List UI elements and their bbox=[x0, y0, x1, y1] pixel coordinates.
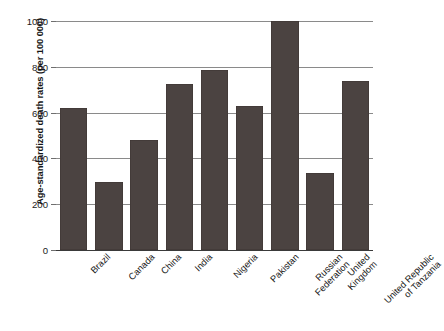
plot-area: 10008006004002000 bbox=[56, 21, 373, 250]
x-axis-label: Nigeria bbox=[231, 252, 259, 280]
bar-slot bbox=[267, 21, 302, 250]
x-axis-label-line: China bbox=[159, 252, 183, 276]
bar[interactable] bbox=[60, 108, 87, 250]
x-axis-labels: BrazilCanadaChinaIndiaNigeriaPakistanRus… bbox=[56, 252, 373, 331]
bar-slot bbox=[303, 21, 338, 250]
x-axis-label: UnitedKingdom bbox=[339, 252, 380, 293]
y-tick-label-800: 800 bbox=[32, 61, 48, 72]
bar-slot bbox=[162, 21, 197, 250]
x-axis-label: Canada bbox=[126, 252, 156, 282]
bar-series bbox=[56, 21, 373, 250]
x-axis-baseline bbox=[56, 250, 373, 251]
x-axis-label: China bbox=[159, 252, 184, 277]
bar[interactable] bbox=[306, 173, 333, 250]
bar[interactable] bbox=[236, 106, 263, 250]
bar-slot bbox=[56, 21, 91, 250]
x-axis-label-line: India bbox=[193, 252, 214, 273]
y-tick-label-200: 200 bbox=[32, 199, 48, 210]
bar-slot bbox=[197, 21, 232, 250]
bar[interactable] bbox=[166, 84, 193, 250]
y-tick-label-1000: 1000 bbox=[27, 16, 48, 27]
bar-slot bbox=[338, 21, 373, 250]
y-tick-label-400: 400 bbox=[32, 153, 48, 164]
x-axis-label-line: Pakistan bbox=[268, 252, 300, 284]
x-axis-label: Pakistan bbox=[268, 252, 301, 285]
x-axis-label-line: Nigeria bbox=[231, 252, 259, 280]
x-axis-label-line: Canada bbox=[126, 252, 156, 282]
bar[interactable] bbox=[130, 140, 157, 250]
bar[interactable] bbox=[201, 70, 228, 250]
bar-slot bbox=[232, 21, 267, 250]
y-tick-label-0: 0 bbox=[43, 245, 48, 256]
y-tick-label-600: 600 bbox=[32, 107, 48, 118]
y-tick-mark-0 bbox=[51, 250, 56, 251]
bar-slot bbox=[91, 21, 126, 250]
x-axis-label: United Republicof Tanzania bbox=[383, 252, 444, 313]
x-axis-label: Brazil bbox=[88, 252, 112, 276]
bar[interactable] bbox=[271, 21, 298, 250]
bar-slot bbox=[126, 21, 161, 250]
x-axis-label: India bbox=[193, 252, 215, 274]
bar[interactable] bbox=[342, 81, 369, 250]
x-axis-label-line: Brazil bbox=[88, 252, 112, 276]
bar[interactable] bbox=[95, 182, 122, 250]
